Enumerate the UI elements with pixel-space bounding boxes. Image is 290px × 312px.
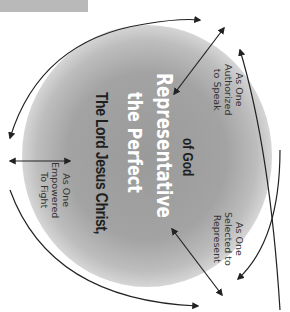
role-label-represent: As One Selected to Represent — [212, 212, 245, 266]
role-label-line: As One — [234, 64, 245, 116]
role-label-line: To Fight — [39, 162, 50, 218]
cycle-arrow-top-right — [145, 20, 200, 25]
role-label-line: Authorized — [223, 64, 234, 116]
title-line-4: of God — [180, 138, 196, 176]
role-label-line: As One — [61, 162, 72, 218]
title-line-2: the Perfect — [123, 92, 147, 193]
title-line-1: The Lord Jesus Christ, — [91, 92, 111, 234]
role-label-line: As One — [234, 212, 245, 266]
role-label-line: Empowered — [50, 162, 61, 218]
role-label-line: Selected to — [223, 212, 234, 266]
role-label-fight: As One Empowered To Fight — [39, 162, 72, 218]
role-label-speak: As One Authorized to Speak — [212, 64, 245, 116]
role-label-line: Represent — [212, 212, 223, 266]
title-line-3: Representative — [152, 73, 176, 218]
role-label-line: to Speak — [212, 64, 223, 116]
